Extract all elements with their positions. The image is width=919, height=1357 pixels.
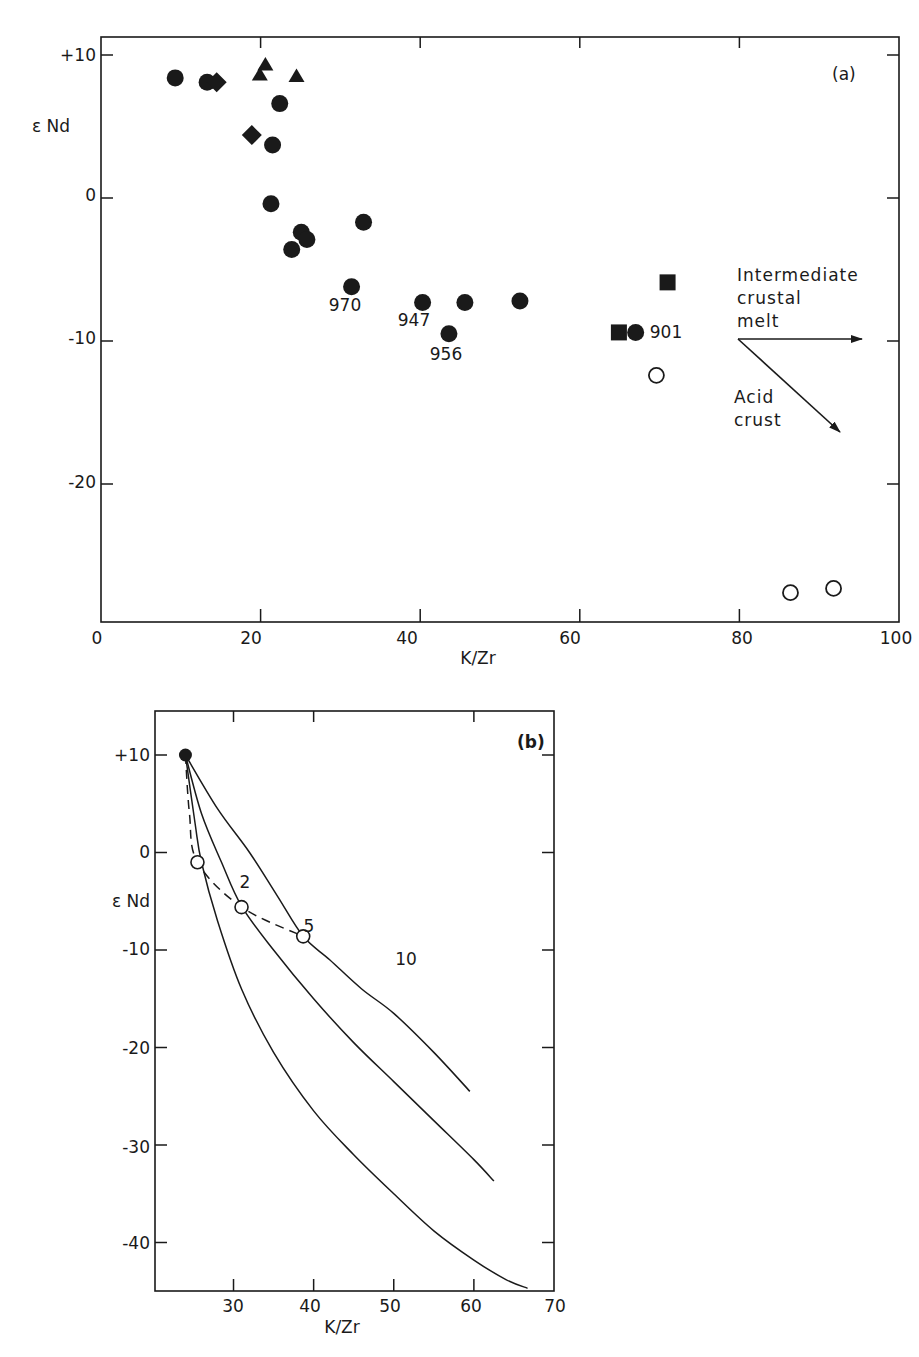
open-circle-marker — [235, 901, 248, 914]
filled-circle-marker — [167, 69, 184, 86]
sample-label-956: 956 — [430, 344, 462, 364]
open-circle-marker — [191, 856, 204, 869]
panel-a: (a) ε Nd K/Zr 0 20 40 60 80 100 +10 0 -1… — [32, 37, 912, 668]
panel-a-tag: (a) — [832, 64, 856, 84]
y-tick-label: -10 — [122, 939, 150, 959]
point-label-5: 5 — [304, 916, 315, 936]
x-tick-label: 80 — [731, 628, 753, 648]
open-circle-marker — [649, 368, 664, 383]
x-tick-label: 30 — [222, 1296, 244, 1316]
sample-label-970: 970 — [329, 295, 361, 315]
filled-diamond-marker — [242, 125, 262, 145]
filled-circle-marker — [627, 324, 644, 341]
x-tick-label: 0 — [92, 628, 103, 648]
x-tick-label: 60 — [559, 628, 581, 648]
intermediate-label-line2: crustal — [737, 288, 802, 308]
sample-label-947: 947 — [398, 310, 430, 330]
x-tick-label: 70 — [544, 1296, 566, 1316]
y-tick-label: 0 — [139, 842, 150, 862]
y-tick-label: -20 — [68, 472, 96, 492]
panel-b-y-tick-labels: +10 0 -10 -20 -30 -40 — [114, 745, 150, 1253]
panel-a-y-tick-labels: +10 0 -10 -20 — [60, 45, 96, 492]
panel-a-arrows: Intermediate crustal melt Acid crust — [734, 265, 862, 432]
filled-circle-marker — [440, 325, 457, 342]
start-point-marker — [179, 749, 192, 762]
filled-circle-marker — [298, 231, 315, 248]
x-tick-label: 50 — [379, 1296, 401, 1316]
x-tick-label: 100 — [880, 628, 912, 648]
y-tick-label: -10 — [68, 328, 96, 348]
panel-a-x-tick-labels: 0 20 40 60 80 100 — [92, 628, 913, 648]
filled-square-marker — [660, 274, 676, 290]
panel-b-x-tick-labels: 30 40 50 60 70 — [222, 1296, 566, 1316]
point-label-10: 10 — [395, 949, 417, 969]
filled-circle-marker — [264, 137, 281, 154]
panel-b-ticks — [155, 711, 554, 1291]
x-tick-label: 60 — [460, 1296, 482, 1316]
intermediate-label-line3: melt — [737, 311, 779, 331]
panel-b-frame — [155, 711, 554, 1291]
y-tick-label: 0 — [85, 185, 96, 205]
filled-circle-marker — [283, 241, 300, 258]
panel-b-curves — [179, 749, 528, 1289]
filled-circle-marker — [343, 278, 360, 295]
mixing-curve — [185, 755, 469, 1091]
acid-crust-label-line1: Acid — [734, 387, 774, 407]
filled-square-marker — [611, 324, 627, 340]
x-tick-label: 40 — [396, 628, 418, 648]
y-tick-label: +10 — [114, 745, 150, 765]
filled-circle-marker — [456, 294, 473, 311]
intermediate-label-line1: Intermediate — [737, 265, 859, 285]
panel-a-x-axis-title: K/Zr — [460, 648, 496, 668]
y-tick-label: +10 — [60, 45, 96, 65]
filled-circle-marker — [414, 294, 431, 311]
filled-circle-marker — [355, 214, 372, 231]
filled-circle-marker — [511, 292, 528, 309]
filled-circle-marker — [271, 95, 288, 112]
open-circle-marker — [826, 581, 841, 596]
acid-crust-label-line2: crust — [734, 410, 782, 430]
x-tick-label: 40 — [299, 1296, 321, 1316]
panel-b: (b) ε Nd K/Zr 30 40 50 60 70 +10 0 -10 -… — [112, 711, 566, 1337]
filled-circle-marker — [262, 195, 279, 212]
sample-label-901: 901 — [650, 322, 682, 342]
panel-b-y-axis-title: ε Nd — [112, 891, 150, 911]
y-tick-label: -30 — [122, 1137, 150, 1157]
point-label-2: 2 — [240, 872, 251, 892]
open-circle-marker — [783, 585, 798, 600]
panel-b-tag: (b) — [517, 732, 545, 752]
filled-triangle-marker — [289, 68, 305, 82]
figure: (a) ε Nd K/Zr 0 20 40 60 80 100 +10 0 -1… — [0, 0, 919, 1357]
x-tick-label: 20 — [240, 628, 262, 648]
panel-b-x-axis-title: K/Zr — [324, 1317, 360, 1337]
y-tick-label: -20 — [122, 1038, 150, 1058]
panel-a-y-axis-title: ε Nd — [32, 116, 70, 136]
y-tick-label: -40 — [122, 1233, 150, 1253]
